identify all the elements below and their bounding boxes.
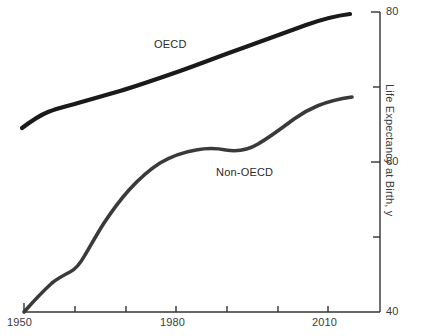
x-tick-label-1980: 1980 — [160, 316, 185, 328]
y-tick-label-40: 40 — [386, 305, 398, 317]
y-axis-ticks — [371, 12, 380, 237]
series-line-oecd — [22, 14, 350, 128]
x-tick-label-1950: 1950 — [7, 316, 32, 328]
series-line-non-oecd — [24, 97, 352, 312]
x-tick-label-2010: 2010 — [312, 316, 337, 328]
y-tick-label-80: 80 — [386, 5, 398, 17]
series-label-oecd: OECD — [154, 38, 187, 50]
life-expectancy-chart: 1950 1980 2010 80 60 40 OECD Non-OECD Li… — [0, 0, 430, 336]
y-axis-title: Life Expectancy at Birth, y — [384, 84, 396, 254]
x-axis-ticks — [24, 303, 328, 312]
chart-plot-area — [0, 0, 430, 336]
series-label-non-oecd: Non-OECD — [216, 166, 273, 178]
